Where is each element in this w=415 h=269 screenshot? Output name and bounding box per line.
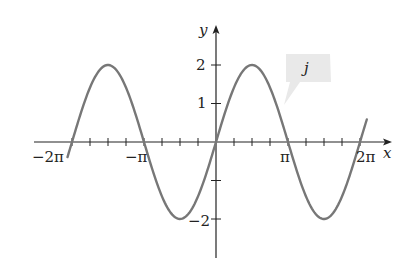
y-tick-label-2: 2 xyxy=(196,56,206,74)
x-tick-label-neg-2pi: −2π xyxy=(32,148,64,166)
x-axis-label: x xyxy=(383,144,392,162)
x-axis xyxy=(34,138,392,146)
sine-graph: j y x −2π −π π 2π 2 1 −2 xyxy=(0,0,415,269)
x-tick-label-neg-pi: −π xyxy=(125,148,148,166)
callout-j: j xyxy=(284,54,331,105)
y-tick-label-1: 1 xyxy=(197,94,207,112)
y-tick-label-neg-2: −2 xyxy=(188,212,210,230)
x-tick-label-2pi: 2π xyxy=(356,148,376,166)
y-axis-label: y xyxy=(198,21,208,39)
x-tick-label-pi: π xyxy=(280,148,290,166)
